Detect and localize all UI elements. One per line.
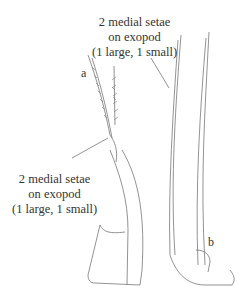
- annotation-top: 2 medial setae on exopod (1 large, 1 sma…: [92, 15, 177, 60]
- annotation-line: on exopod: [92, 30, 177, 45]
- annotation-arrow-bottom: [72, 138, 108, 158]
- annotation-bottom: 2 medial setae on exopod (1 large, 1 sma…: [12, 172, 97, 217]
- annotation-line: on exopod: [12, 187, 97, 202]
- annotation-line: (1 large, 1 small): [12, 202, 97, 217]
- panel-label-b: b: [208, 235, 214, 250]
- panel-label-a: a: [81, 66, 86, 81]
- annotation-arrow-top: [151, 58, 169, 88]
- figure: 2 medial setae on exopod (1 large, 1 sma…: [0, 0, 245, 308]
- annotation-line: (1 large, 1 small): [92, 45, 177, 60]
- annotation-line: 2 medial setae: [92, 15, 177, 30]
- annotation-line: 2 medial setae: [12, 172, 97, 187]
